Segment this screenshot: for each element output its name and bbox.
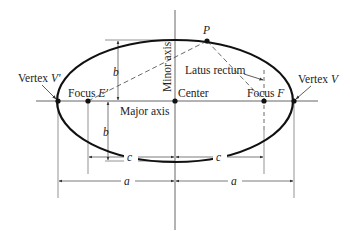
vertex-right-pointer (296, 86, 311, 99)
center-point (172, 98, 177, 103)
point-p-label: P (202, 24, 210, 36)
vertex-right-label: Vertex V (298, 73, 340, 85)
b-lower-label: b (103, 126, 109, 138)
vertex-left-point (55, 98, 60, 103)
center-label: Center (178, 87, 209, 99)
b-upper-label: b (113, 66, 119, 78)
c-left-label: c (127, 151, 132, 163)
c-right-label: c (216, 151, 221, 163)
a-right-label: a (231, 175, 237, 187)
vertex-right-point (291, 98, 296, 103)
latus-rectum-pointer (244, 74, 263, 80)
a-left-label: a (124, 175, 130, 187)
point-p (204, 38, 209, 43)
major-axis-label: Major axis (120, 105, 170, 118)
minor-axis-label: Minor axis (161, 41, 173, 92)
focus-left-label: Focus E′ (68, 87, 108, 99)
focus-left-point (85, 98, 90, 103)
latus-rectum-label: Latus rectum (185, 64, 245, 76)
vertex-left-label: Vertex V′ (18, 72, 61, 84)
ellipse-diagram: Vertex V′ Vertex V Focus E′ Focus F Cent… (0, 0, 350, 231)
vertex-left-pointer (42, 85, 56, 99)
focus-right-label: Focus F (247, 87, 285, 99)
diagram-svg: Vertex V′ Vertex V Focus E′ Focus F Cent… (0, 0, 350, 231)
focus-right-point (261, 98, 266, 103)
